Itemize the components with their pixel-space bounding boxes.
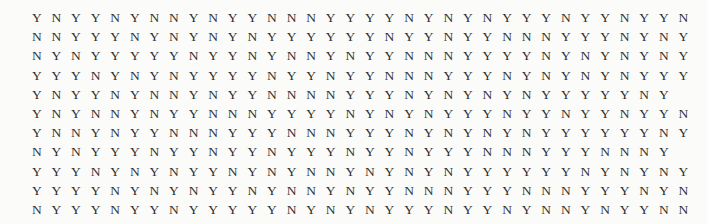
grid-cell: Y <box>243 66 263 85</box>
grid-cell: N <box>27 27 47 46</box>
grid-cell: Y <box>203 162 223 181</box>
grid-cell: Y <box>66 8 86 27</box>
grid-cell: Y <box>184 8 204 27</box>
grid-cell: Y <box>438 142 458 161</box>
grid-cell: Y <box>360 8 380 27</box>
grid-cell: N <box>164 200 184 219</box>
grid-cell: N <box>282 123 302 142</box>
grid-cell: Y <box>125 181 145 200</box>
grid-cell: Y <box>301 142 321 161</box>
grid-cell: Y <box>301 200 321 219</box>
grid-cell: Y <box>634 8 654 27</box>
grid-cell: N <box>47 27 67 46</box>
grid-cell: Y <box>478 200 498 219</box>
grid-cell: Y <box>86 181 106 200</box>
grid-cell: Y <box>164 219 184 224</box>
grid-cell: Y <box>164 142 184 161</box>
grid-cell: Y <box>27 85 47 104</box>
grid-cell: N <box>654 46 674 65</box>
grid-cell: N <box>517 85 537 104</box>
grid-cell: N <box>380 104 400 123</box>
grid-cell: N <box>419 46 439 65</box>
table-row: NYNYYYYYNYYNYNNYNYYNNNYYYYNYNYNYNY <box>0 46 707 65</box>
grid-cell: N <box>105 104 125 123</box>
grid-cell: Y <box>223 46 243 65</box>
grid-cell: Y <box>536 8 556 27</box>
grid-cell: N <box>576 66 596 85</box>
grid-cell: N <box>576 162 596 181</box>
grid-cell: Y <box>27 181 47 200</box>
grid-cell: N <box>654 27 674 46</box>
grid-cell: N <box>145 8 165 27</box>
grid-cell: Y <box>184 219 204 224</box>
grid-cell: Y <box>654 66 674 85</box>
grid-cell: N <box>301 8 321 27</box>
grid-cell: N <box>556 104 576 123</box>
grid-cell: Y <box>86 123 106 142</box>
grid-cell: Y <box>360 66 380 85</box>
grid-cell: Y <box>615 181 635 200</box>
grid-cell: N <box>341 142 361 161</box>
grid-cell: Y <box>145 162 165 181</box>
grid-cell: Y <box>674 46 694 65</box>
grid-cell: N <box>341 181 361 200</box>
grid-cell: Y <box>556 66 576 85</box>
grid-cell: Y <box>595 162 615 181</box>
grid-cell: Y <box>595 27 615 46</box>
table-row: YNYYNYNNYNYYNNNYYYYNYNYNYYYNYYNYYN <box>0 8 707 27</box>
binary-value-grid: YNYYNYNNYNYYNNNYYYYNYNYNYYYNYYNYYNNNYYYN… <box>0 0 707 224</box>
grid-cell: Y <box>634 162 654 181</box>
grid-cell: Y <box>360 85 380 104</box>
grid-cell: Y <box>497 123 517 142</box>
grid-cell: N <box>301 181 321 200</box>
grid-cell: Y <box>556 162 576 181</box>
grid-cell: Y <box>576 8 596 27</box>
grid-cell: Y <box>223 66 243 85</box>
grid-cell: Y <box>674 27 694 46</box>
grid-cell: Y <box>438 104 458 123</box>
grid-cell: Y <box>497 181 517 200</box>
grid-cell: Y <box>341 200 361 219</box>
grid-cell: Y <box>125 219 145 224</box>
grid-cell: Y <box>125 46 145 65</box>
grid-cell: Y <box>517 46 537 65</box>
grid-cell: Y <box>125 123 145 142</box>
grid-cell: Y <box>399 200 419 219</box>
grid-cell: Y <box>341 85 361 104</box>
grid-cell: N <box>399 123 419 142</box>
grid-cell: Y <box>47 181 67 200</box>
grid-cell: Y <box>419 123 439 142</box>
table-row: YYYYNYNYNYYNYNNYNYYNNNYYYNNNYYYNYN <box>0 181 707 200</box>
grid-cell: N <box>262 66 282 85</box>
table-row: YNNYNYYNNNYYYNNNYYYNYNYNYNYYYYYYNY <box>0 123 707 142</box>
grid-cell: Y <box>517 8 537 27</box>
grid-cell: N <box>517 181 537 200</box>
grid-cell: N <box>282 200 302 219</box>
grid-cell: N <box>184 123 204 142</box>
grid-cell: Y <box>341 162 361 181</box>
grid-cell: Y <box>203 46 223 65</box>
grid-cell: Y <box>243 123 263 142</box>
grid-cell: Y <box>321 46 341 65</box>
grid-cell: Y <box>536 85 556 104</box>
grid-cell: N <box>399 162 419 181</box>
grid-cell: N <box>164 85 184 104</box>
grid-cell: N <box>536 66 556 85</box>
grid-cell: N <box>164 27 184 46</box>
grid-cell: Y <box>576 104 596 123</box>
grid-cell: Y <box>497 8 517 27</box>
grid-cell: Y <box>203 200 223 219</box>
grid-cell: N <box>399 142 419 161</box>
grid-cell: Y <box>184 27 204 46</box>
grid-cell: N <box>262 85 282 104</box>
grid-cell: N <box>419 66 439 85</box>
grid-cell: Y <box>145 27 165 46</box>
grid-cell: Y <box>223 181 243 200</box>
grid-cell: Y <box>27 123 47 142</box>
grid-cell: N <box>478 142 498 161</box>
grid-cell: N <box>321 162 341 181</box>
grid-cell: Y <box>66 200 86 219</box>
grid-cell: N <box>674 8 694 27</box>
grid-cell: N <box>27 142 47 161</box>
grid-cell: Y <box>105 162 125 181</box>
